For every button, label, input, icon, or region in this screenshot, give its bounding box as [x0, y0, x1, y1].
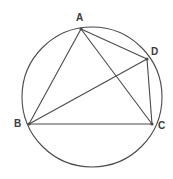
segment-ac [81, 29, 152, 124]
vertex-label-c: C [158, 121, 165, 131]
vertex-point-d [145, 57, 148, 60]
geometry-figure: A B C D [0, 0, 173, 179]
vertex-point-a [79, 27, 82, 30]
vertex-label-b: B [14, 119, 21, 129]
vertex-point-c [150, 122, 153, 125]
vertex-label-a: A [76, 13, 83, 23]
vertex-label-d: D [151, 47, 158, 57]
geometry-canvas [0, 0, 173, 179]
vertex-point-b [27, 122, 30, 125]
segment-dc [147, 59, 152, 124]
circumcircle [22, 27, 162, 167]
